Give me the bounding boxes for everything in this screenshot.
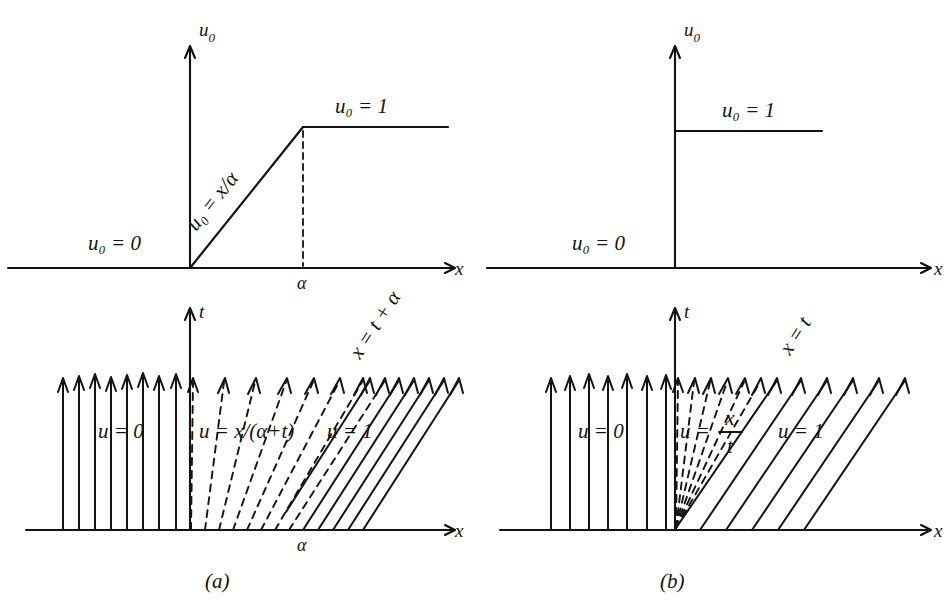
panel-a-char-x-axis-label: x (454, 520, 464, 541)
char-line (348, 382, 443, 530)
panel-b-t-axis-label: t (684, 301, 690, 322)
fan-line (676, 382, 760, 528)
panel-b-initial-data: u0 x u₀ = 0 u₀ = 1 (487, 19, 943, 279)
fan-line (676, 382, 744, 528)
panel-b-right-state-label: u₀ = 1 (722, 98, 775, 122)
fan-arrowhead (278, 378, 291, 394)
panel-b-left-state-label: u₀ = 0 (572, 231, 625, 255)
panel-a-boundary-label: x = t + α (344, 285, 406, 363)
char-line (303, 382, 398, 530)
panel-a-initial-data: u0 x u₀ = 0 u₀ = 1 u₀ = x/α α (8, 19, 464, 293)
panel-a-caption: (a) (205, 569, 230, 593)
panel-b-x-axis-label: x (933, 258, 943, 279)
panel-a-u0-axis-label: u0 (199, 19, 216, 45)
char-line (318, 382, 413, 530)
fan-line (676, 382, 710, 528)
panel-a-t-axis-label: t (199, 301, 205, 322)
fan-line (233, 382, 286, 530)
char-arrowhead (896, 378, 909, 395)
panel-b-region-u0-characteristics (546, 374, 671, 530)
panel-a-right-state-label: u₀ = 1 (335, 94, 388, 118)
panel-a-region-u1-characteristics (286, 378, 463, 530)
char-line (804, 382, 904, 530)
char-line (363, 382, 458, 530)
fan-line (191, 382, 193, 530)
fan-line (261, 382, 339, 530)
char-arrowhead (870, 378, 883, 395)
char-arrowhead (450, 378, 463, 395)
panel-b-u0-axis-label: u0 (684, 19, 701, 45)
char-line (726, 382, 826, 530)
fan-arrowhead (752, 378, 765, 395)
char-arrowhead (420, 378, 433, 395)
char-line (676, 382, 776, 528)
panel-a-characteristics: t x α u = 0 u = x/(α+t) u = 1 x = t + α … (26, 285, 464, 593)
panel-b-fan-region-numerator: x (724, 406, 735, 430)
char-line (700, 382, 800, 530)
panel-a-left-region-label: u = 0 (98, 419, 144, 443)
panel-a-left-state-label: u₀ = 0 (88, 231, 141, 255)
panel-a-region-u0-characteristics (58, 373, 181, 530)
char-arrowhead (792, 378, 805, 395)
char-arrowhead (844, 378, 857, 395)
panel-a-fan-region-label: u = x/(α+t) (199, 419, 294, 443)
characteristics-figure: u0 x u₀ = 0 u₀ = 1 u₀ = x/α α (0, 0, 952, 604)
char-arrowhead (405, 378, 418, 395)
figure-canvas: u0 x u₀ = 0 u₀ = 1 u₀ = x/α α (0, 0, 952, 604)
panel-a-x-axis-label: x (454, 258, 464, 279)
panel-b-right-region-label: u = 1 (778, 419, 824, 443)
char-arrowhead (390, 378, 403, 395)
char-arrowhead (768, 378, 781, 395)
fan-line (205, 382, 224, 530)
panel-b-fan-region-label: u = x t (680, 406, 742, 458)
fan-arrowhead (376, 378, 389, 395)
char-line (333, 382, 428, 530)
fan-line (676, 382, 727, 528)
char-line (778, 382, 878, 530)
panel-a-char-alpha-tick-label: α (297, 535, 307, 555)
panel-a-alpha-tick-label: α (297, 273, 307, 293)
panel-b-char-x-axis-label: x (933, 520, 943, 541)
panel-b-characteristics: t x u = 0 u = x t u = 1 x = t (b) (500, 301, 943, 593)
fan-line (219, 382, 255, 530)
char-arrowhead (818, 378, 831, 395)
panel-b-fan-region-prefix: u = (680, 419, 710, 443)
fan-line (676, 382, 678, 528)
char-line (752, 382, 852, 530)
panel-b-caption: (b) (660, 569, 685, 593)
char-arrowhead (435, 378, 448, 395)
panel-b-boundary-label: x = t (774, 311, 817, 359)
panel-b-left-region-label: u = 0 (578, 419, 624, 443)
panel-a-right-region-label: u = 1 (327, 419, 373, 443)
